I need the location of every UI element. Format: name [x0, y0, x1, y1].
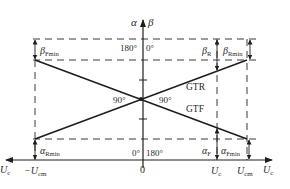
alpha-fmin-label: αFmin: [221, 145, 241, 157]
alpha-f-label: αF: [202, 145, 211, 157]
ucm-tick-label: Ucm: [237, 165, 253, 178]
angle-label-90-right: 90°: [159, 95, 172, 105]
alpha-axis-label: α: [131, 16, 137, 28]
uc-tick-label: Uc: [211, 165, 221, 178]
beta-rmin-label: βRmin: [222, 45, 243, 57]
angle-label-0-top: 0°: [146, 43, 155, 53]
origin-label: 0: [140, 164, 145, 175]
beta-axis-label: β: [147, 16, 154, 28]
gtr-label: GTR: [186, 82, 206, 92]
angle-label-180-top: 180°: [120, 43, 138, 53]
angle-label-0-bottom: 0°: [132, 148, 141, 158]
neg-ucm-label: −Ucm: [24, 165, 47, 178]
intersection-point: [139, 97, 143, 101]
uc-axis-label-left: Uc: [0, 164, 10, 177]
uc-axis-label-right: Uc: [263, 164, 273, 177]
beta-r-label: βR: [201, 45, 212, 57]
alpha-rmin-label: αRmin: [40, 145, 60, 157]
thyristor-control-characteristic-diagram: α β Uc Uc 0 −Ucm Uc Ucm 180° 0° 90° 90° …: [0, 0, 290, 189]
gtf-label: GTF: [186, 104, 204, 114]
angle-label-90-left: 90°: [113, 95, 126, 105]
beta-fmin-label: βFmin: [39, 45, 59, 57]
angle-label-180-bottom: 180°: [146, 148, 164, 158]
